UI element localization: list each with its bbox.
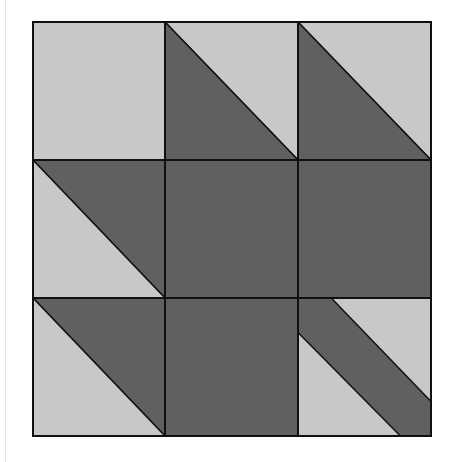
quilt-cell-r2-c1 (165, 298, 298, 436)
quilt-block (0, 0, 456, 462)
quilt-cells (33, 22, 431, 436)
quilt-cell-r0-c0 (33, 22, 165, 160)
quilt-cell-r1-c1 (165, 160, 298, 298)
quilt-cell-r1-c2 (298, 160, 431, 298)
